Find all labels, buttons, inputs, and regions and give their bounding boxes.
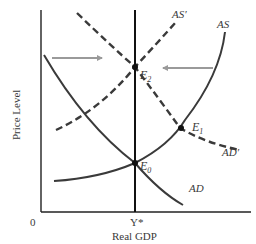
label-e1: E1 xyxy=(191,120,203,136)
point-e1 xyxy=(178,125,184,131)
x-tick-y-star: Y* xyxy=(130,216,143,228)
label-e0: E0 xyxy=(139,159,151,175)
as-prime-curve xyxy=(56,22,176,130)
ad-prime-curve xyxy=(77,13,240,150)
label-ad: AD xyxy=(188,182,204,194)
point-e2 xyxy=(132,64,138,70)
label-as-prime: AS′ xyxy=(171,8,187,20)
label-e2: E2 xyxy=(139,68,151,84)
label-as: AS xyxy=(216,18,230,30)
x-axis-label: Real GDP xyxy=(112,230,157,242)
ad-curve xyxy=(44,55,183,205)
point-e0 xyxy=(132,160,138,166)
as-ad-diagram: E2 E1 E0 AS′ AS AD′ AD 0 Y* Real GDP Pri… xyxy=(0,0,256,244)
label-ad-prime: AD′ xyxy=(221,146,240,158)
origin-label: 0 xyxy=(30,216,36,228)
y-axis-label: Price Level xyxy=(10,90,22,140)
